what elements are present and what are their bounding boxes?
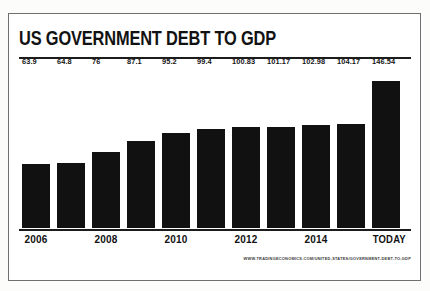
chart-page: US GOVERNMENT DEBT TO GDP 63.964.87687.1…	[0, 0, 430, 291]
bar: 101.17	[267, 127, 295, 228]
bar-value-label: 104.17	[337, 57, 360, 66]
bar-column: 100.83	[232, 68, 260, 228]
bar-value-label: 63.9	[22, 57, 37, 66]
bar-value-label: 99.4	[197, 57, 212, 66]
bar: 102.98	[302, 125, 330, 228]
x-axis-tick-label: 2012	[232, 234, 260, 248]
bar: 100.83	[232, 127, 260, 228]
x-axis-tick-label: 2006	[22, 234, 50, 248]
bar-column: 87.1	[127, 68, 155, 228]
bar-value-label: 100.83	[232, 57, 255, 66]
bar-column: 99.4	[197, 68, 225, 228]
bar: 64.8	[57, 163, 85, 228]
x-axis-tick-spacer	[197, 234, 225, 248]
bar-value-label: 64.8	[57, 57, 72, 66]
bar-value-label: 146.54	[372, 57, 395, 66]
bar: 63.9	[22, 164, 50, 228]
bar: 146.54	[372, 81, 400, 228]
bar: 76	[92, 152, 120, 228]
bar: 104.17	[337, 124, 365, 228]
bar-column: 76	[92, 68, 120, 228]
bar: 99.4	[197, 129, 225, 228]
bar-value-label: 95.2	[162, 57, 177, 66]
page-title: US GOVERNMENT DEBT TO GDP	[19, 27, 276, 48]
x-axis-tick-spacer	[127, 234, 155, 248]
bar-chart-plot-area: 63.964.87687.195.299.4100.83101.17102.98…	[19, 66, 411, 231]
bar: 95.2	[162, 133, 190, 228]
bar-value-label: 76	[92, 57, 100, 66]
bar-value-label: 102.98	[302, 57, 325, 66]
x-axis-tick-spacer	[337, 234, 365, 248]
bar-column: 146.54	[372, 68, 400, 228]
bar-value-label: 87.1	[127, 57, 142, 66]
bar: 87.1	[127, 141, 155, 228]
bar-column: 101.17	[267, 68, 295, 228]
source-url: WWW.TRADINGECONOMICS.COM/UNITED-STATES/G…	[244, 256, 411, 261]
x-axis-tick-label: TODAY	[373, 234, 400, 248]
bar-column: 102.98	[302, 68, 330, 228]
x-axis-tick-label: 2008	[92, 234, 120, 248]
x-axis-line	[19, 229, 411, 231]
x-axis-tick-label: 2014	[302, 234, 330, 248]
x-axis-tick-spacer	[267, 234, 295, 248]
x-axis-tick-label: 2010	[162, 234, 190, 248]
bar-column: 104.17	[337, 68, 365, 228]
bar-column: 95.2	[162, 68, 190, 228]
x-axis-labels: 20062008201020122014TODAY	[22, 234, 408, 248]
x-axis-tick-spacer	[57, 234, 85, 248]
bar-column: 63.9	[22, 68, 50, 228]
bar-series: 63.964.87687.195.299.4100.83101.17102.98…	[22, 68, 408, 228]
bar-value-label: 101.17	[267, 57, 290, 66]
bar-column: 64.8	[57, 68, 85, 228]
